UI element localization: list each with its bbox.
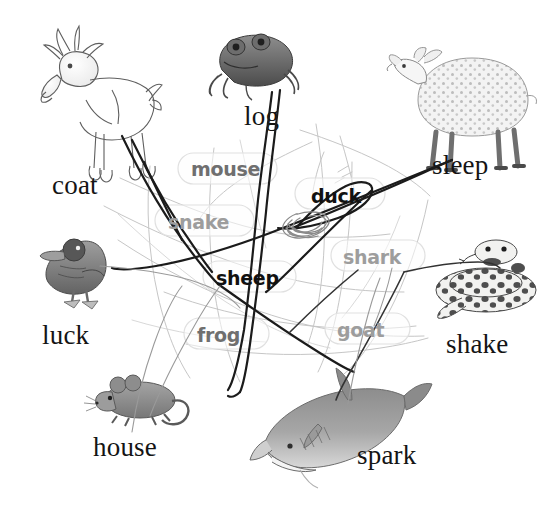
stroke-house-pencil — [132, 286, 182, 432]
word-tile-mouse[interactable]: mouse — [191, 160, 260, 179]
stroke-house-to-frog — [150, 286, 220, 416]
drawn-connection-strokes[interactable] — [0, 0, 560, 516]
word-tile-frog[interactable]: frog — [197, 326, 240, 345]
worksheet-canvas[interactable]: coat log sleep luck shake house spark mo… — [0, 0, 560, 516]
stroke-shark-to-snake — [404, 262, 500, 272]
word-tile-duck[interactable]: duck — [311, 187, 361, 206]
word-tile-goat[interactable]: goat — [337, 321, 384, 340]
stroke-spark-to-goat — [348, 278, 380, 404]
word-tile-sheep[interactable]: sheep — [216, 269, 279, 288]
light-pencil-connections — [100, 266, 392, 432]
word-tile-snake[interactable]: snake — [168, 213, 229, 232]
stroke-frog-hook — [228, 392, 240, 397]
word-tile-shark[interactable]: shark — [343, 248, 401, 267]
stroke-shark-fin-line — [374, 268, 392, 326]
